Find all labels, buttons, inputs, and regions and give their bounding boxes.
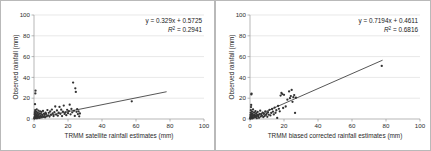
x-axis-title: TRMM satellite rainfall estimates (mm): [64, 132, 173, 140]
data-point: [381, 65, 383, 67]
y-tick-label: 100: [236, 11, 247, 18]
data-point: [58, 106, 60, 108]
data-point: [61, 115, 63, 117]
data-point: [65, 114, 67, 116]
r-squared-label: R2 = 0.6816: [384, 26, 418, 33]
data-point: [266, 116, 268, 118]
data-point: [267, 111, 269, 113]
y-tick-label: 40: [239, 74, 246, 81]
data-point: [283, 94, 285, 96]
data-point: [68, 110, 70, 112]
data-point: [254, 110, 256, 112]
data-point: [250, 104, 252, 106]
y-tick-label: 0: [27, 115, 31, 122]
data-point: [269, 114, 271, 116]
y-tick-label: 20: [239, 94, 246, 101]
data-point: [67, 112, 69, 114]
scatter-chart-right: 020406080100020406080100TRMM biased corr…: [216, 1, 431, 151]
data-point: [78, 115, 80, 117]
chart-panel-left: 020406080100020406080100TRMM satellite r…: [0, 0, 215, 151]
data-point: [294, 112, 296, 114]
data-point: [64, 111, 66, 113]
x-tick-label: 40: [315, 122, 322, 129]
chart-panel-right: 020406080100020406080100TRMM biased corr…: [215, 0, 431, 151]
x-tick-label: 100: [199, 122, 210, 129]
data-point: [291, 101, 293, 103]
y-tick-label: 20: [23, 94, 30, 101]
regression-equation-label: y = 0.329x + 0.5725: [146, 17, 203, 25]
data-point: [63, 104, 65, 106]
data-point: [77, 110, 79, 112]
data-point: [69, 104, 71, 106]
data-point: [75, 111, 77, 113]
data-point: [276, 117, 278, 119]
x-axis-title: TRMM biased corrected rainfall estimates…: [268, 132, 403, 140]
x-tick-label: 40: [99, 122, 106, 129]
data-point: [60, 108, 62, 110]
x-tick-label: 20: [65, 122, 72, 129]
data-point: [273, 113, 275, 115]
data-point: [274, 112, 276, 114]
r-squared-label: R2 = 0.2941: [168, 26, 202, 33]
data-point: [49, 110, 51, 112]
y-tick-label: 60: [23, 53, 30, 60]
data-point: [62, 111, 64, 113]
data-point: [48, 115, 50, 117]
data-point: [69, 113, 71, 115]
y-tick-label: 0: [243, 115, 247, 122]
data-point: [42, 110, 44, 112]
data-point: [286, 99, 288, 101]
x-tick-label: 100: [415, 122, 426, 129]
data-point: [275, 109, 277, 111]
y-axis-title: Observed rainfall (mm): [228, 35, 236, 100]
x-tick-label: 60: [349, 122, 356, 129]
scatter-chart-left: 020406080100020406080100TRMM satellite r…: [1, 1, 215, 151]
data-point: [259, 110, 261, 112]
data-point: [290, 95, 292, 97]
x-tick-label: 60: [133, 122, 140, 129]
data-point: [57, 115, 59, 117]
y-tick-label: 40: [23, 74, 30, 81]
data-point: [289, 97, 291, 99]
data-point: [34, 92, 36, 94]
y-tick-label: 80: [239, 32, 246, 39]
trendline: [34, 92, 167, 119]
data-point: [291, 89, 293, 91]
x-tick-label: 0: [248, 122, 252, 129]
data-point: [282, 107, 284, 109]
data-point: [279, 110, 281, 112]
data-point: [288, 90, 290, 92]
data-point: [271, 108, 273, 110]
data-point: [250, 92, 252, 94]
y-tick-label: 100: [20, 11, 31, 18]
data-point: [279, 94, 281, 96]
data-point: [53, 111, 55, 113]
data-point: [75, 91, 77, 93]
data-point: [76, 108, 78, 110]
x-tick-label: 20: [281, 122, 288, 129]
regression-equation-label: y = 0.7194x + 0.4611: [358, 17, 418, 25]
data-point: [59, 113, 61, 115]
data-point: [46, 109, 48, 111]
data-point: [72, 81, 74, 83]
data-point: [257, 111, 259, 113]
data-point: [51, 108, 53, 110]
data-point: [256, 117, 258, 119]
data-point: [73, 110, 75, 112]
data-point: [45, 113, 47, 115]
data-point: [54, 105, 56, 107]
data-point: [285, 105, 287, 107]
data-point: [74, 87, 76, 89]
data-point: [70, 108, 72, 110]
data-point: [34, 90, 36, 92]
data-point: [79, 112, 81, 114]
data-point: [71, 111, 73, 113]
data-point: [268, 109, 270, 111]
data-point: [56, 109, 58, 111]
data-point: [278, 108, 280, 110]
data-point: [272, 111, 274, 113]
y-axis-title: Observed rainfall (mm): [12, 35, 20, 100]
data-point: [274, 106, 276, 108]
x-tick-label: 80: [167, 122, 174, 129]
y-tick-label: 60: [239, 53, 246, 60]
